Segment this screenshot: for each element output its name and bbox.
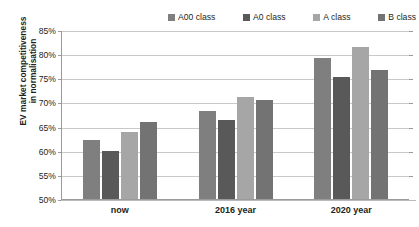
bar bbox=[352, 47, 369, 199]
y-tick-mark-right bbox=[409, 176, 413, 177]
cropped-header-sliver bbox=[0, 0, 419, 7]
legend-item-a00-class: A00 class bbox=[168, 13, 215, 22]
legend-swatch-a0-icon bbox=[243, 14, 250, 21]
bar bbox=[121, 132, 138, 199]
legend-label: A0 class bbox=[253, 13, 285, 22]
bar-group-bars bbox=[62, 31, 178, 199]
legend-swatch-a00-icon bbox=[168, 14, 175, 21]
y-axis-tick-label: 60% bbox=[39, 147, 56, 156]
bar bbox=[237, 97, 254, 199]
y-axis-tick-label: 80% bbox=[39, 51, 56, 60]
y-axis-tick-label: 65% bbox=[39, 123, 56, 132]
y-axis-tick-label: 55% bbox=[39, 171, 56, 180]
legend-label: A00 class bbox=[178, 13, 215, 22]
y-tick-mark-right bbox=[409, 31, 413, 32]
bar bbox=[102, 151, 119, 199]
legend-swatch-b-icon bbox=[378, 14, 385, 21]
legend-item-a-class: A class bbox=[313, 13, 350, 22]
bar-group-bars bbox=[293, 31, 409, 199]
bar-group: now bbox=[62, 31, 178, 199]
y-axis-title-line2: in normalisation bbox=[28, 0, 39, 155]
bar-group-bars bbox=[178, 31, 294, 199]
y-tick-mark-right bbox=[409, 152, 413, 153]
chart-legend: A00 class A0 class A class B class bbox=[168, 11, 416, 23]
bar bbox=[371, 70, 388, 199]
bar bbox=[140, 122, 157, 199]
y-tick-mark-right bbox=[409, 128, 413, 129]
bar bbox=[333, 77, 350, 199]
legend-item-b-class: B class bbox=[378, 13, 416, 22]
y-axis-title: EV market competitiveness in normalisati… bbox=[15, 0, 41, 155]
y-tick-mark-right bbox=[409, 103, 413, 104]
y-axis-tick-label: 50% bbox=[39, 196, 56, 205]
y-axis-tick-label: 75% bbox=[39, 75, 56, 84]
bar-group: 2020 year bbox=[293, 31, 409, 199]
y-axis-tick-label: 70% bbox=[39, 99, 56, 108]
y-tick-mark-right bbox=[409, 55, 413, 56]
bar bbox=[256, 100, 273, 199]
bar-chart: A00 class A0 class A class B class EV ma… bbox=[0, 0, 419, 227]
bar-group: 2016 year bbox=[178, 31, 294, 199]
y-axis-title-line1: EV market competitiveness bbox=[18, 0, 29, 155]
legend-label: A class bbox=[323, 13, 350, 22]
bar-groups: now2016 year2020 year bbox=[62, 31, 409, 199]
plot-area: 85%80%75%70%65%60%55%50% now2016 year202… bbox=[61, 31, 409, 200]
legend-label: B class bbox=[388, 13, 416, 22]
x-axis-tick-label: 2020 year bbox=[293, 205, 409, 215]
x-axis-tick-label: now bbox=[62, 205, 178, 215]
bar bbox=[314, 58, 331, 199]
y-tick-mark-right bbox=[409, 79, 413, 80]
baseline-rule bbox=[61, 200, 416, 201]
y-axis-tick-label: 85% bbox=[39, 27, 56, 36]
x-axis-tick-label: 2016 year bbox=[178, 205, 294, 215]
legend-swatch-a-icon bbox=[313, 14, 320, 21]
bar bbox=[83, 140, 100, 199]
bar bbox=[199, 111, 216, 199]
bar bbox=[218, 120, 235, 199]
legend-item-a0-class: A0 class bbox=[243, 13, 285, 22]
